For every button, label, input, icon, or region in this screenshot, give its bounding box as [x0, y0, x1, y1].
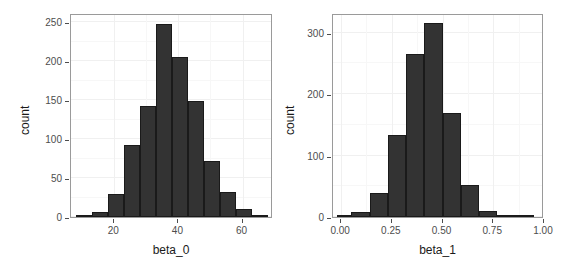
y-tick-mark	[65, 140, 69, 141]
x-tick-mark	[340, 219, 341, 223]
histogram-bar	[424, 23, 442, 217]
histogram-bar	[461, 185, 479, 217]
y-tick-mark	[65, 218, 69, 219]
gridline-x-major	[341, 15, 342, 217]
histogram-bar	[370, 193, 388, 217]
gridline-y-major	[71, 21, 271, 22]
y-tick-mark	[65, 62, 69, 63]
plot-area-beta-0	[70, 14, 272, 218]
y-tick-mark	[327, 218, 331, 219]
gridline-x-minor	[519, 15, 520, 217]
histogram-bar	[92, 212, 108, 217]
x-tick-mark	[442, 219, 443, 223]
histogram-bar	[443, 113, 461, 217]
y-tick-label: 200	[290, 90, 324, 100]
histogram-bar	[236, 209, 252, 217]
plot-area-beta-1	[332, 14, 543, 218]
x-tick-label: 40	[152, 226, 202, 236]
x-tick-label: 0.00	[315, 226, 365, 236]
histogram-bar	[76, 215, 92, 217]
x-tick-label: 0.25	[366, 226, 416, 236]
y-tick-label: 50	[28, 174, 62, 184]
y-tick-mark	[65, 101, 69, 102]
y-tick-mark	[65, 179, 69, 180]
gridline-x-major	[243, 15, 244, 217]
y-tick-label: 200	[28, 57, 62, 67]
x-axis-title-beta-1: beta_1	[332, 243, 543, 257]
x-tick-mark	[242, 219, 243, 223]
histogram-bar	[516, 215, 534, 217]
x-tick-label: 60	[217, 226, 267, 236]
histogram-bar	[497, 215, 515, 217]
histogram-bar	[204, 161, 220, 217]
y-tick-label: 250	[28, 18, 62, 28]
gridline-x-minor	[366, 15, 367, 217]
histogram-bar	[479, 211, 497, 217]
panel-beta-0: 050100150200250 204060 beta_0 count	[0, 0, 289, 267]
histogram-bar	[388, 135, 406, 217]
x-tick-label: 0.75	[467, 226, 517, 236]
y-axis-title-beta-1: count	[283, 106, 297, 135]
histogram-bar	[108, 194, 124, 217]
histogram-bar	[406, 54, 424, 217]
y-tick-label: 0	[290, 213, 324, 223]
histogram-bar	[220, 192, 236, 217]
x-tick-mark	[543, 219, 544, 223]
y-tick-label: 300	[290, 29, 324, 39]
gridline-x-major	[114, 15, 115, 217]
y-tick-label: 100	[28, 135, 62, 145]
x-axis-title-beta-0: beta_0	[70, 243, 272, 257]
histogram-bar	[172, 57, 188, 217]
y-tick-mark	[327, 157, 331, 158]
histogram-bar	[351, 212, 369, 217]
y-tick-mark	[327, 34, 331, 35]
x-tick-mark	[391, 219, 392, 223]
x-tick-label: 20	[88, 226, 138, 236]
y-tick-label: 150	[28, 96, 62, 106]
histogram-bar	[188, 101, 204, 217]
histogram-bar	[252, 215, 268, 217]
x-tick-label: 0.50	[417, 226, 467, 236]
y-tick-mark	[327, 95, 331, 96]
histogram-bar	[124, 145, 140, 217]
x-tick-mark	[492, 219, 493, 223]
y-tick-mark	[65, 23, 69, 24]
panel-beta-1: 0100200300 0.000.250.500.751.00 beta_1 c…	[289, 0, 577, 267]
y-axis-title-beta-0: count	[18, 106, 32, 135]
x-tick-mark	[113, 219, 114, 223]
histogram-bar	[140, 106, 156, 217]
x-tick-label: 1.00	[518, 226, 568, 236]
gridline-x-major	[493, 15, 494, 217]
y-tick-label: 100	[290, 152, 324, 162]
x-tick-mark	[177, 219, 178, 223]
y-tick-label: 0	[28, 213, 62, 223]
histogram-bar	[337, 215, 351, 217]
histogram-figure: 050100150200250 204060 beta_0 count 0100…	[0, 0, 577, 267]
histogram-bar	[156, 24, 172, 217]
